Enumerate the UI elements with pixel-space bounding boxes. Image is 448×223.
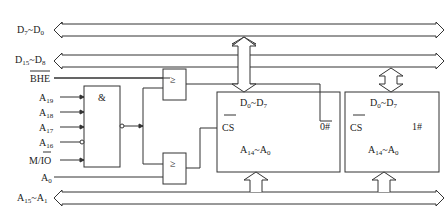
chip1-cs-label: CS <box>350 122 362 133</box>
label-a15-a1: A15~A1 <box>17 192 48 205</box>
label-mio: M/IO <box>29 155 51 166</box>
or-gate-bottom-symbol: ≥ <box>170 158 176 169</box>
label-d7-d0: D7~D0 <box>17 24 44 37</box>
chip0-id: 0# <box>320 121 330 132</box>
or-gate-top-symbol: ≥ <box>170 74 176 85</box>
chip0-cs-label: CS <box>222 122 234 133</box>
chip0-addr-label: A14~A0 <box>240 144 271 157</box>
label-bhe: BHE <box>30 73 50 84</box>
label-a19: A19 <box>39 92 54 105</box>
label-a17: A17 <box>39 122 54 135</box>
label-a0: A0 <box>41 172 52 185</box>
label-d15-d8: D15~D8 <box>15 54 46 67</box>
chip1-id: 1# <box>412 121 422 132</box>
and-gate-symbol: & <box>98 92 106 103</box>
label-a16: A16 <box>39 137 54 150</box>
chip0-data-label: D0~D7 <box>240 97 267 110</box>
chip1-data-label: D0~D7 <box>370 97 397 110</box>
label-a18: A18 <box>39 107 54 120</box>
memory-interface-diagram: D7~D0 D15~D8 BHE A19 A18 A17 A16 M/IO A0… <box>0 0 448 223</box>
chip1-addr-label: A14~A0 <box>368 144 399 157</box>
